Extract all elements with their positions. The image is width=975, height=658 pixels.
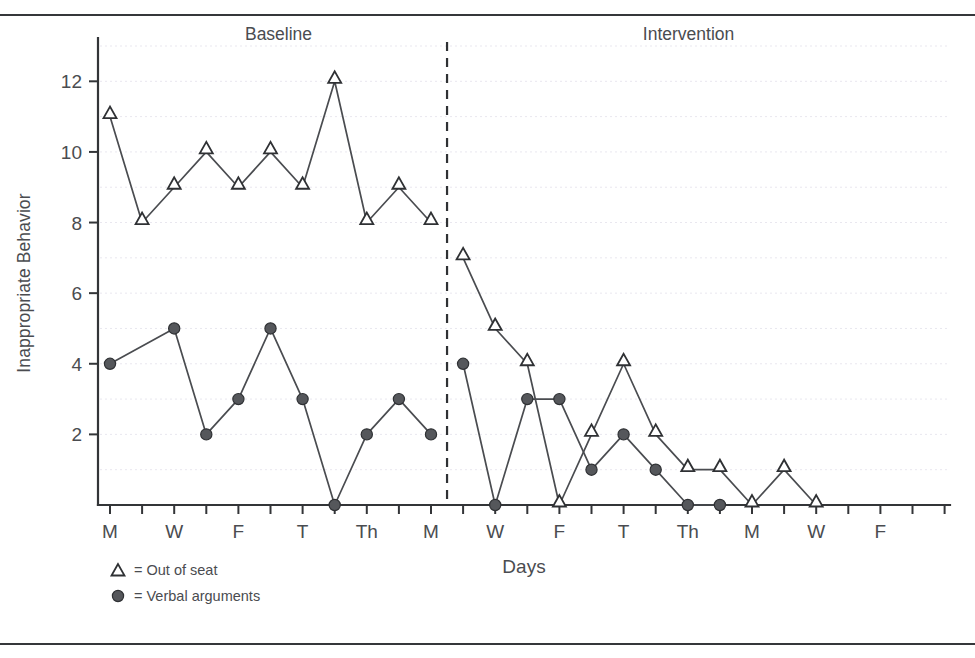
x-axis-tick-label: Th <box>677 521 699 542</box>
x-axis-tick-label: W <box>807 521 825 542</box>
data-point-circle <box>458 358 469 369</box>
data-point-circle <box>169 323 180 334</box>
data-point-circle <box>104 358 115 369</box>
data-point-circle <box>554 393 565 404</box>
figure-container: 24681012 MWFTThMWFTThMWF Inappropriate B… <box>0 0 975 658</box>
legend-label-out-of-seat: = Out of seat <box>134 562 217 578</box>
data-point-circle <box>425 429 436 440</box>
data-point-triangle <box>617 354 630 366</box>
series-out-of-seat-markers <box>104 71 823 506</box>
chart-legend: = Out of seat = Verbal arguments <box>112 562 261 604</box>
x-axis-tick-label: Th <box>356 521 378 542</box>
y-axis-tick-labels-group: 24681012 <box>61 71 83 445</box>
data-point-circle <box>361 429 372 440</box>
data-point-triangle <box>778 460 791 472</box>
x-axis-tick-label: T <box>297 521 309 542</box>
data-point-circle <box>682 499 693 510</box>
y-axis-ticks-group <box>89 81 98 434</box>
data-point-triangle <box>264 142 277 154</box>
y-axis-tick-label: 2 <box>71 424 82 445</box>
single-subject-line-chart: 24681012 MWFTThMWFTThMWF Inappropriate B… <box>0 18 975 638</box>
legend-circle-icon <box>112 590 123 601</box>
x-axis-tick-label: W <box>165 521 183 542</box>
y-axis-tick-label: 10 <box>61 142 82 163</box>
phase-label-intervention: Intervention <box>643 24 734 44</box>
data-point-circle <box>650 464 661 475</box>
data-point-triangle <box>457 248 470 260</box>
x-axis-tick-label: F <box>875 521 887 542</box>
legend-label-verbal-arguments: = Verbal arguments <box>134 588 260 604</box>
legend-triangle-icon <box>112 564 125 576</box>
x-axis-tick-label: W <box>486 521 504 542</box>
y-axis-tick-label: 6 <box>71 283 82 304</box>
chart-plot-area: 24681012 MWFTThMWFTThMWF Inappropriate B… <box>0 18 975 638</box>
y-axis-tick-label: 8 <box>71 213 82 234</box>
data-point-circle <box>329 499 340 510</box>
data-point-circle <box>586 464 597 475</box>
data-point-circle <box>522 393 533 404</box>
y-axis-tick-label: 4 <box>71 354 82 375</box>
bottom-divider-rule <box>0 643 975 645</box>
series-polyline <box>110 328 431 505</box>
x-axis-tick-label: M <box>102 521 118 542</box>
data-point-circle <box>393 393 404 404</box>
data-point-circle <box>490 499 501 510</box>
x-axis-tick-label: M <box>744 521 760 542</box>
series-verbal-arguments-line <box>110 328 720 505</box>
data-point-circle <box>233 393 244 404</box>
series-polyline <box>463 258 816 505</box>
phase-label-baseline: Baseline <box>245 24 312 44</box>
data-point-triangle <box>328 71 341 83</box>
data-point-triangle <box>713 460 726 472</box>
data-point-circle <box>201 429 212 440</box>
x-axis-tick-labels-group: MWFTThMWFTThMWF <box>102 521 886 542</box>
data-point-triangle <box>392 177 405 189</box>
data-point-triangle <box>104 107 117 119</box>
y-axis-title: Inappropriate Behavior <box>14 193 34 372</box>
data-point-circle <box>265 323 276 334</box>
x-axis-tick-label: T <box>618 521 630 542</box>
data-point-triangle <box>200 142 213 154</box>
data-point-circle <box>618 429 629 440</box>
top-divider-rule <box>0 14 975 16</box>
x-axis-title: Days <box>502 556 545 577</box>
x-axis-tick-label: F <box>554 521 566 542</box>
x-axis-tick-label: F <box>233 521 245 542</box>
data-point-circle <box>297 393 308 404</box>
y-axis-tick-label: 12 <box>61 71 82 92</box>
data-point-circle <box>714 499 725 510</box>
x-axis-tick-label: M <box>423 521 439 542</box>
